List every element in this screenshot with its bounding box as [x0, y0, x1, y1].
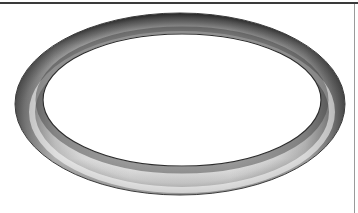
o-ring-illustration	[0, 0, 358, 213]
ring-body	[15, 13, 345, 195]
image-frame	[0, 0, 358, 213]
